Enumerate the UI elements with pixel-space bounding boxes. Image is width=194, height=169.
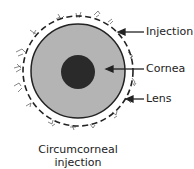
label-lens: Lens (146, 93, 171, 105)
label-cornea: Cornea (146, 63, 185, 75)
caption-line-2: injection (28, 156, 128, 169)
label-injection: Injection (146, 26, 193, 38)
caption-line-1: Circumcorneal (28, 143, 128, 156)
pupil (61, 55, 95, 89)
